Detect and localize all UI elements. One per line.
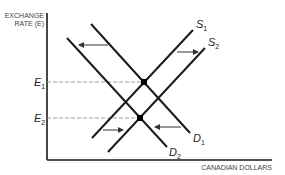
equilibrium-point-e1 <box>141 79 147 85</box>
x-axis-title: CANADIAN DOLLARS <box>201 164 272 171</box>
s1-label: S1 <box>196 18 207 32</box>
y-axis-title-line2: RATE (E) <box>15 20 44 28</box>
d1-label: D1 <box>193 132 205 146</box>
d2-label: D2 <box>169 146 181 160</box>
exchange-rate-diagram: EXCHANGE RATE (E) CANADIAN DOLLARS E1 E2… <box>0 0 285 175</box>
e1-label: E1 <box>34 76 45 90</box>
e2-label: E2 <box>34 112 45 126</box>
s2-label: S2 <box>208 36 219 50</box>
equilibrium-point-e2 <box>137 115 143 121</box>
y-axis-title-line1: EXCHANGE <box>5 12 45 19</box>
